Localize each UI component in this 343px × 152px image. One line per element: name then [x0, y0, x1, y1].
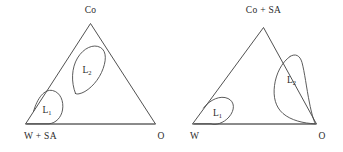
left-ternary-diagram: Co W + SA O L1 L2 [24, 5, 165, 141]
right-region-l2-curve [274, 57, 315, 124]
left-region-l1-label-sub: 1 [48, 109, 51, 116]
left-region-l2-label-sub: 2 [88, 69, 91, 76]
right-region-l1-label: L1 [213, 108, 222, 119]
right-bottom-left-label: W [190, 131, 199, 141]
right-region-l2-label-sub: 2 [293, 79, 296, 86]
left-region-l2-label: L2 [83, 65, 92, 76]
right-apex-label: Co + SA [246, 5, 281, 15]
right-region-l2-label: L2 [287, 75, 296, 86]
figure-container: Co W + SA O L1 L2 Co + SA W O L1 L2 [0, 0, 343, 152]
right-region-l1-label-sub: 1 [219, 112, 222, 119]
right-region-l2-curve-inner [290, 55, 315, 124]
right-triangle-outline [193, 28, 317, 125]
right-bottom-right-label: O [319, 131, 326, 141]
left-bottom-right-label: O [158, 131, 165, 141]
left-region-l1-label: L1 [43, 105, 52, 116]
left-apex-label: Co [85, 5, 97, 15]
right-ternary-diagram: Co + SA W O L1 L2 [190, 5, 326, 141]
ternary-diagram-pair: Co W + SA O L1 L2 Co + SA W O L1 L2 [0, 0, 343, 152]
left-bottom-left-label: W + SA [24, 131, 57, 141]
